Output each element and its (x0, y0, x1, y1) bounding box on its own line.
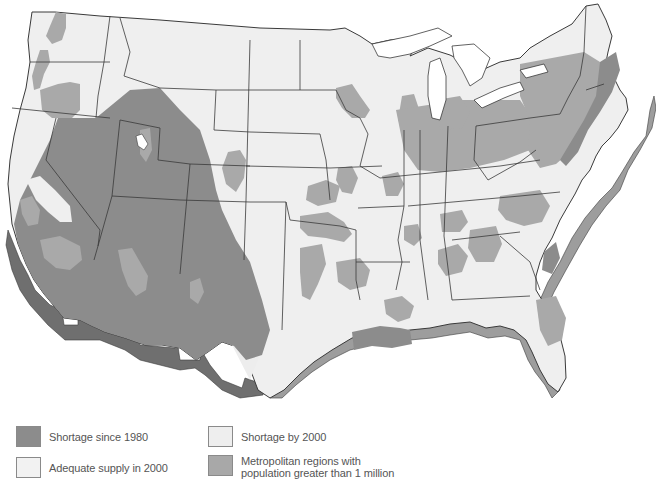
legend-label-metro-line1: Metropolitan regions with (241, 455, 361, 467)
legend-label-shortage-since-1980: Shortage since 1980 (49, 431, 148, 443)
legend-item-metro: Metropolitan regions with population gre… (208, 455, 394, 479)
legend-label-metro-line2: population greater than 1 million (241, 467, 394, 479)
us-water-supply-map (0, 0, 656, 410)
swatch-adequate-supply (16, 457, 41, 478)
legend-item-shortage-by-2000: Shortage by 2000 (208, 426, 326, 447)
map-legend: Shortage since 1980 Adequate supply in 2… (0, 420, 656, 485)
swatch-shortage-by-2000 (208, 426, 233, 447)
legend-label-shortage-by-2000: Shortage by 2000 (241, 431, 326, 443)
legend-label-adequate-supply: Adequate supply in 2000 (49, 462, 168, 474)
legend-label-metro: Metropolitan regions with population gre… (241, 455, 394, 479)
legend-item-shortage-since-1980: Shortage since 1980 (16, 426, 148, 447)
swatch-shortage-since-1980 (16, 426, 41, 447)
legend-item-adequate-supply: Adequate supply in 2000 (16, 457, 168, 478)
swatch-metro (208, 455, 233, 476)
